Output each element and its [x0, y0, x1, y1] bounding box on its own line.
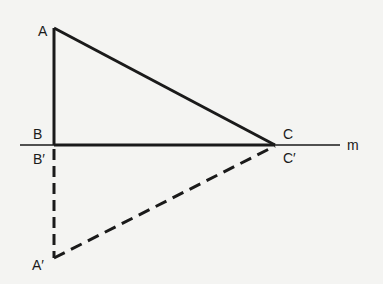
- label-a: A: [38, 23, 48, 39]
- segment-a-prime-c-prime: [54, 146, 275, 258]
- original-triangle: [54, 28, 275, 145]
- label-c-prime: C′: [283, 150, 296, 166]
- segment-ac: [54, 28, 275, 145]
- label-m: m: [347, 137, 359, 153]
- label-b: B: [33, 126, 42, 142]
- label-b-prime: B′: [33, 151, 45, 167]
- label-a-prime: A′: [32, 257, 44, 273]
- image-triangle: [54, 146, 275, 258]
- label-c: C: [283, 126, 293, 142]
- reflection-diagram: A B B′ C C′ m A′: [0, 0, 383, 284]
